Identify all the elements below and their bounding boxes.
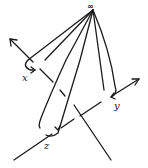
diagram-canvas — [0, 0, 148, 168]
infinity-label: ∞ — [87, 3, 94, 11]
axis-line-1 — [10, 39, 111, 160]
axis-line-2 — [14, 79, 139, 160]
loop-x — [25, 10, 93, 73]
label-y: y — [114, 101, 120, 111]
label-z: z — [44, 141, 49, 151]
loop-z — [39, 10, 93, 136]
loop-y — [93, 10, 116, 99]
label-x: x — [22, 73, 28, 83]
